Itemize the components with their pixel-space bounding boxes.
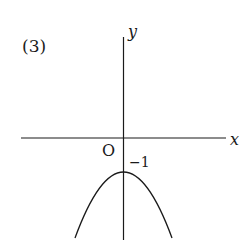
graph-figure: (3) y x O −1 [0,0,247,240]
y-intercept-label: −1 [129,155,150,169]
problem-number-label: (3) [22,38,46,55]
origin-label: O [102,143,115,159]
x-axis-label: x [230,132,239,148]
y-axis-label: y [128,24,137,40]
